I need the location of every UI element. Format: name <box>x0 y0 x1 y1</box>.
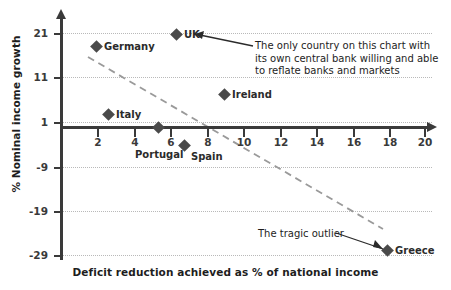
gridline-minus19 <box>61 211 432 212</box>
annotation-greece-callout: The tragic outlier <box>258 228 344 241</box>
gridline-1 <box>61 122 432 123</box>
x-tick-label-16: 16 <box>342 137 366 148</box>
x-tick-label-20: 20 <box>413 137 437 148</box>
y-tick-11 <box>54 77 63 79</box>
data-label-germany: Germany <box>104 42 155 52</box>
x-axis-arrow <box>427 122 437 132</box>
y-tick-minus9 <box>54 167 63 169</box>
y-tick-21 <box>54 33 63 35</box>
x-tick-label-14: 14 <box>305 137 329 148</box>
data-label-portugal: Portugal <box>135 150 183 160</box>
data-label-uk: UK <box>184 30 200 40</box>
y-tick-1 <box>54 122 63 124</box>
data-point-germany[interactable] <box>90 40 103 53</box>
gridline-21 <box>61 33 432 34</box>
gridline-minus9 <box>61 167 432 168</box>
y-tick-label-11: 11 <box>18 72 48 83</box>
y-tick-label-minus29: -29 <box>18 250 48 261</box>
data-label-greece: Greece <box>395 246 434 256</box>
y-tick-minus29 <box>54 255 63 257</box>
x-tick-label-18: 18 <box>378 137 402 148</box>
data-label-spain: Spain <box>191 152 223 162</box>
x-tick-label-2: 2 <box>86 137 110 148</box>
data-point-uk[interactable] <box>170 28 183 41</box>
y-tick-label-1: 1 <box>18 117 48 128</box>
y-axis-title: % Nominal income growth <box>10 14 22 214</box>
x-tick-label-12: 12 <box>269 137 293 148</box>
y-tick-label-minus19: -19 <box>18 206 48 217</box>
annotation-uk-callout: The only country on this chart with its … <box>255 40 445 78</box>
x-tick-label-8: 8 <box>196 137 220 148</box>
data-label-ireland: Ireland <box>232 90 272 100</box>
y-tick-minus19 <box>54 211 63 213</box>
y-axis-line <box>60 18 63 260</box>
x-axis-title: Deficit reduction achieved as % of natio… <box>0 266 451 278</box>
data-point-ireland[interactable] <box>218 88 231 101</box>
y-tick-label-21: 21 <box>18 28 48 39</box>
x-tick-label-10: 10 <box>232 137 256 148</box>
x-tick-label-4: 4 <box>123 137 147 148</box>
y-tick-label-minus9: -9 <box>18 162 48 173</box>
y-axis-arrow <box>56 9 66 19</box>
scatter-chart: 21 11 1 -9 -19 -29 2 4 6 8 10 12 14 16 1… <box>0 0 451 290</box>
data-point-italy[interactable] <box>102 108 115 121</box>
gridline-minus29 <box>61 255 432 256</box>
data-label-italy: Italy <box>116 110 141 120</box>
